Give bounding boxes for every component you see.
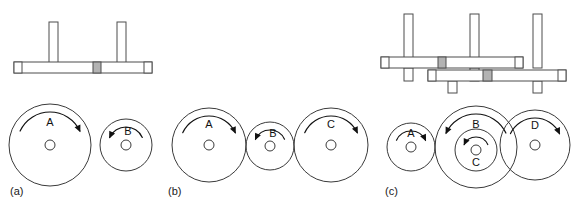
panel-a-wheel-b-hub [121,140,131,150]
panel-c-upper-shaft-shaded-block-0 [438,57,446,68]
panel-b-wheel-b-hub [265,141,275,151]
panel-c-side-view [381,14,566,93]
panel-c-wheel-c-label: C [472,156,480,168]
panel-a-main-shaft-shaded-block-0 [93,62,101,73]
wheel-a-arrow-head-icon [75,124,81,132]
panel-c-post-a-lower [404,68,413,81]
wheel-a-arrow-head-icon [230,126,236,134]
panel-a-wheels: AB [9,104,152,186]
panel-c-wheel-d-hub [530,140,540,150]
panel-c-wheel-d: D [500,110,570,180]
panel-c-wheel-a-label: A [407,127,415,139]
wheel-c-arrow-head-icon [352,126,358,134]
panel-b-wheels: ABC [172,108,368,182]
panel-c: ABCD(c) [381,14,570,197]
panel-c-wheel-d-label: D [531,119,539,131]
panel-b-wheel-b: B [246,122,294,170]
gear-train-figure: AB(a)ABC(b)ABCD(c) [0,0,578,207]
panel-b-wheel-b-label: B [269,127,276,139]
panel-a-main-shaft-end-cap-0 [14,62,22,73]
panel-c-wheel-b-label: B [472,118,479,130]
panel-c-wheel-a: A [387,123,435,171]
panel-a-wheel-a-label: A [46,116,54,128]
panel-b-wheel-a: A [172,108,246,182]
panel-c-lower-shaft-end-cap-1 [558,70,566,81]
panel-a-wheel-a-hub [45,140,55,150]
panel-c-wheel-a-hub [406,142,416,152]
panel-b-wheel-a-hub [204,140,214,150]
panel-c-lower-shaft [428,70,566,81]
panel-a-wheel-a: A [9,104,91,186]
gear-train-canvas: AB(a)ABC(b)ABCD(c) [0,0,578,207]
panel-b-caption: (b) [168,185,181,197]
panel-a-main-shaft [14,62,152,73]
panel-c-post-c-lower [448,81,457,93]
wheel-d-arrow-head-icon [554,127,560,135]
panel-c-caption: (c) [385,185,398,197]
panel-b-wheel-a-label: A [205,118,213,130]
panel-a-wheel-b: B [100,119,152,171]
wheel-b-arrow-head-icon [446,126,452,134]
panel-c-upper-shaft [381,57,523,68]
panel-c-post-d [533,14,542,68]
panel-c-lower-shaft-end-cap-0 [428,70,436,81]
panel-c-upper-shaft-end-cap-1 [515,57,523,68]
panel-c-wheel-c-hub [471,145,481,155]
panel-a: AB(a) [9,22,152,197]
panel-b-wheel-c-label: C [327,118,335,130]
panel-c-wheel-c: C [455,129,497,171]
panel-c-post-d-lower [533,81,542,93]
panel-c-lower-shaft-shaded-block-0 [483,70,492,81]
panel-a-wheel-b-label: B [124,125,131,137]
panel-b: ABC(b) [168,108,368,197]
panel-c-wheels: ABCD [387,106,570,188]
panel-c-upper-shaft-end-cap-0 [381,57,389,68]
panel-b-wheel-c-hub [326,140,336,150]
panel-a-main-shaft-end-cap-1 [144,62,152,73]
panel-b-wheel-c: C [294,108,368,182]
panel-a-side-view [14,22,152,73]
panel-a-caption: (a) [10,185,23,197]
